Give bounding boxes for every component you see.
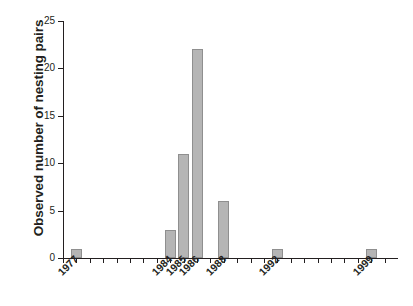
x-axis-tick [331,258,332,263]
y-axis-tick-label-text: 15 [33,111,55,121]
y-axis-tick-label: 0 [31,253,55,263]
y-axis-tick-label-text: 0 [33,253,55,263]
x-axis-line [63,258,398,259]
x-axis-tick [143,258,144,263]
y-axis-tick-label: 5 [31,206,55,216]
bar-1985 [178,154,189,258]
x-axis-tick [251,258,252,263]
y-axis-tick-label: 20 [31,63,55,73]
y-axis-tick-label-text: 20 [33,63,55,73]
x-axis-tick [304,258,305,263]
y-axis-tick-label: 15 [31,111,55,121]
x-axis-tick [291,258,292,263]
x-axis-tick [344,258,345,263]
x-axis-tick [103,258,104,263]
chart-figure: Observed number of nesting pairs 0510152… [0,0,413,306]
x-axis-tick [117,258,118,263]
x-axis-tick [90,258,91,263]
y-axis-tick-label-text: 25 [33,16,55,26]
y-axis-title: Observed number of nesting pairs [28,0,50,258]
x-axis-tick [385,258,386,263]
y-axis-line [63,21,64,259]
y-axis-tick-label: 25 [31,16,55,26]
x-axis-tick [318,258,319,263]
y-axis-tick-label: 10 [31,158,55,168]
bar-1988 [218,201,229,258]
x-axis-tick [130,258,131,263]
x-axis-tick [237,258,238,263]
bar-1986 [192,49,203,258]
y-axis-tick-label-text: 5 [33,206,55,216]
y-axis-tick-label-text: 10 [33,158,55,168]
